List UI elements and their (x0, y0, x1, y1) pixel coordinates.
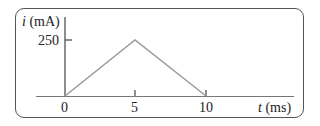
current-waveform (65, 40, 206, 96)
y-tick-label-250: 250 (38, 34, 59, 48)
x-tick-label-10: 10 (199, 101, 213, 115)
x-axis-label: t (ms) (258, 101, 291, 115)
x-tick-label-5: 5 (131, 101, 138, 115)
x-tick-label-0: 0 (61, 101, 68, 115)
y-axis-label: i (mA) (22, 15, 60, 29)
